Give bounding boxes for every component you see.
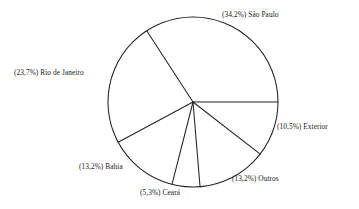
pie-slice-divider-outros — [193, 102, 200, 187]
slice-label-rio-de-janeiro: (23,7%) Rio de Janeiro — [14, 69, 84, 77]
pie-slice-divider-group — [118, 31, 278, 187]
slice-label-ceara: (5,3%) Ceará — [140, 189, 180, 197]
pie-chart-graphic — [0, 0, 359, 209]
pie-slice-divider-bahia — [118, 102, 193, 142]
slice-label-bahia: (13,2%) Bahia — [79, 163, 123, 171]
pie-slice-divider-ceará — [172, 102, 193, 184]
slice-label-outros: (13,2%) Outros — [232, 175, 279, 183]
slice-label-sao-paulo: (34,2%) São Paulo — [222, 11, 278, 19]
pie-slice-divider-rio-de-janeiro — [147, 31, 193, 102]
pie-slice-divider-exterior — [193, 102, 260, 154]
pie-chart: (34,2%) São Paulo (23,7%) Rio de Janeiro… — [0, 0, 359, 209]
slice-label-exterior: (10,5%) Exterior — [277, 123, 328, 131]
